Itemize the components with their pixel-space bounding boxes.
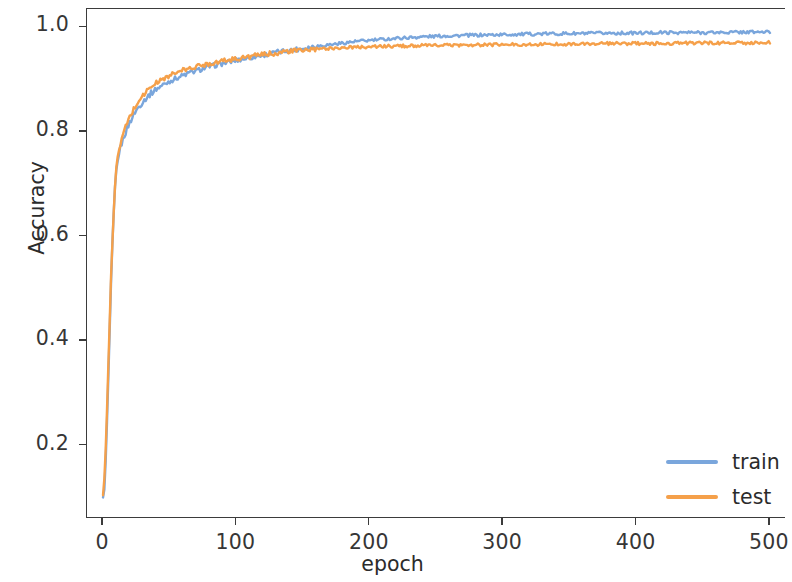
x-tick-label: 100 — [195, 530, 275, 554]
x-tick-label: 500 — [729, 530, 792, 554]
legend-label: train — [732, 452, 780, 473]
legend-item-train: train — [666, 449, 780, 475]
legend-label: test — [732, 487, 771, 508]
y-tick-mark — [79, 26, 86, 27]
x-tick-mark — [235, 518, 236, 525]
y-tick-mark — [79, 235, 86, 236]
legend-color-swatch — [666, 495, 718, 498]
y-tick-mark — [79, 130, 86, 131]
x-tick-label: 0 — [62, 530, 142, 554]
y-tick-label: 1.0 — [11, 12, 69, 36]
series-line-train — [103, 31, 770, 498]
x-tick-mark — [368, 518, 369, 525]
x-axis-label: epoch — [0, 552, 785, 576]
plot-svg — [87, 9, 785, 518]
legend-item-test: test — [666, 484, 780, 510]
x-tick-label: 200 — [329, 530, 409, 554]
plot-area — [86, 8, 785, 518]
x-tick-mark — [635, 518, 636, 525]
x-tick-mark — [768, 518, 769, 525]
x-tick-mark — [101, 518, 102, 525]
x-tick-label: 400 — [596, 530, 676, 554]
y-tick-label: 0.4 — [11, 326, 69, 350]
y-tick-mark — [79, 339, 86, 340]
y-tick-mark — [79, 444, 86, 445]
y-axis-label: Accuracy — [25, 118, 49, 298]
series-line-test — [103, 41, 770, 495]
y-tick-label: 0.2 — [11, 431, 69, 455]
legend: traintest — [666, 449, 780, 510]
legend-color-swatch — [666, 460, 718, 463]
x-tick-label: 300 — [462, 530, 542, 554]
x-tick-mark — [501, 518, 502, 525]
